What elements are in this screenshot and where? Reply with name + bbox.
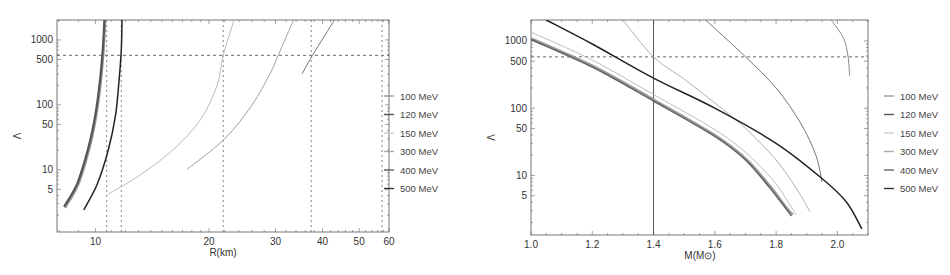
legend-item: 150 MeV: [384, 128, 439, 139]
y-tick-label: 500: [36, 54, 53, 65]
y-tick-label: 50: [42, 119, 54, 130]
y-tick-label: 5: [521, 190, 527, 201]
right-legend: 100 MeV120 MeV150 MeV300 MeV400 MeV500 M…: [884, 91, 939, 195]
legend-item: 120 MeV: [384, 109, 439, 120]
y-tick-label: 5: [47, 184, 53, 195]
y-tick-label: 100: [36, 99, 53, 110]
legend-label: 400 MeV: [900, 165, 939, 176]
legend-label: 400 MeV: [400, 165, 439, 176]
legend-label: 120 MeV: [900, 109, 939, 120]
series-line: [706, 20, 822, 182]
legend-item: 400 MeV: [384, 165, 439, 176]
legend-item: 150 MeV: [884, 128, 939, 139]
x-tick-label: 30: [270, 236, 282, 247]
x-axis-label: M(M⊙): [684, 250, 715, 261]
x-tick-label: 1.4: [647, 239, 661, 250]
series-line: [546, 20, 862, 229]
x-tick-label: 2.0: [830, 239, 844, 250]
left-chart-r-vs-lambda: 510501005001000102030405060R(km)Λ: [12, 20, 395, 258]
x-tick-label: 1.2: [585, 239, 599, 250]
series-line: [623, 20, 810, 212]
legend-label: 100 MeV: [900, 91, 939, 102]
legend-label: 150 MeV: [400, 128, 439, 139]
x-axis-label: R(km): [209, 247, 236, 258]
legend-label: 500 MeV: [400, 183, 439, 194]
series-line: [531, 32, 796, 215]
x-tick-label: 1.0: [524, 239, 538, 250]
x-tick-label: 40: [317, 236, 329, 247]
series-group: [531, 20, 862, 229]
x-tick-label: 60: [383, 236, 395, 247]
y-tick-label: 10: [42, 164, 54, 175]
x-tick-label: 1.6: [708, 239, 722, 250]
series-line: [302, 20, 334, 74]
x-tick-label: 1.8: [769, 239, 783, 250]
y-tick-label: 50: [516, 123, 528, 134]
left-legend: 100 MeV120 MeV150 MeV300 MeV400 MeV500 M…: [384, 91, 439, 195]
y-tick-label: 1000: [505, 35, 528, 46]
y-tick-label: 1000: [31, 34, 54, 45]
y-tick-label: 500: [510, 56, 527, 67]
legend-item: 100 MeV: [884, 91, 939, 102]
legend-item: 300 MeV: [884, 146, 939, 157]
series-line: [831, 20, 849, 76]
legend-item: 120 MeV: [884, 109, 939, 120]
legend-label: 300 MeV: [900, 146, 939, 157]
figure: 510501005001000102030405060R(km)Λ 100 Me…: [0, 0, 950, 275]
y-tick-label: 10: [516, 170, 528, 181]
x-tick-label: 10: [90, 236, 102, 247]
series-line: [108, 20, 234, 194]
x-tick-label: 50: [354, 236, 366, 247]
y-axis-label: Λ: [486, 134, 497, 141]
legend-item: 400 MeV: [884, 165, 939, 176]
series-line: [531, 40, 791, 216]
right-chart-m-vs-lambda: 5105010050010001.01.21.41.61.82.0M(M⊙)Λ: [486, 20, 868, 261]
y-tick-label: 100: [510, 103, 527, 114]
legend-label: 150 MeV: [900, 128, 939, 139]
legend-label: 500 MeV: [900, 183, 939, 194]
series-group: [64, 20, 334, 210]
legend-label: 100 MeV: [400, 91, 439, 102]
reference-lines: [57, 20, 389, 232]
legend-label: 120 MeV: [400, 109, 439, 120]
legend-item: 300 MeV: [384, 146, 439, 157]
legend-item: 500 MeV: [384, 183, 439, 194]
y-axis-label: Λ: [12, 132, 23, 139]
legend-item: 100 MeV: [384, 91, 439, 102]
x-tick-label: 20: [204, 236, 216, 247]
legend-item: 500 MeV: [884, 183, 939, 194]
series-line: [64, 20, 104, 207]
series-line: [187, 20, 293, 169]
legend-label: 300 MeV: [400, 146, 439, 157]
